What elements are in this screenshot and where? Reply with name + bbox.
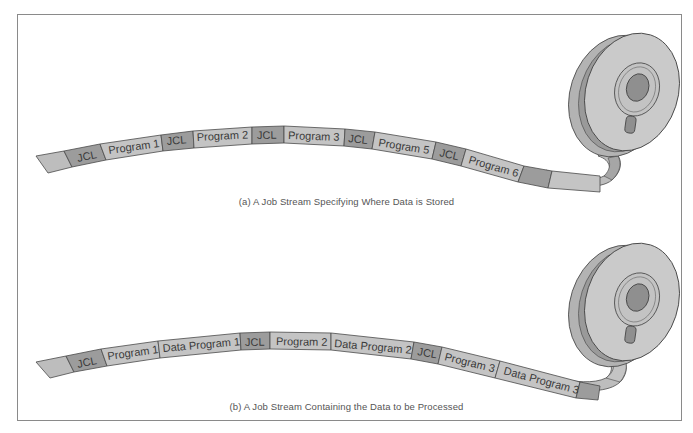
caption-panel-a: (a) A Job Stream Specifying Where Data i…: [0, 196, 693, 207]
segment-label: Program 3: [288, 129, 340, 143]
panel-b-tape: JCL Program 1 Data Program 1 JCL Program…: [36, 231, 693, 400]
caption-panel-b: (b) A Job Stream Containing the Data to …: [0, 401, 693, 412]
segment-label: JCL: [348, 132, 369, 146]
segment-label: JCL: [257, 129, 277, 141]
tape-segment-jcl: [518, 166, 552, 188]
panel-a-tape: JCL Program 1 JCL Program 2 JCL Program …: [36, 21, 693, 192]
segment-label: JCL: [166, 133, 187, 147]
tape-reel-icon: [553, 231, 693, 380]
job-stream-diagram: JCL Program 1 JCL Program 2 JCL Program …: [0, 0, 693, 433]
tape-segment-blank: [548, 171, 600, 192]
tape-reel-icon: [553, 21, 693, 170]
segment-label: JCL: [245, 336, 265, 348]
segment-label: Program 2: [276, 335, 328, 348]
